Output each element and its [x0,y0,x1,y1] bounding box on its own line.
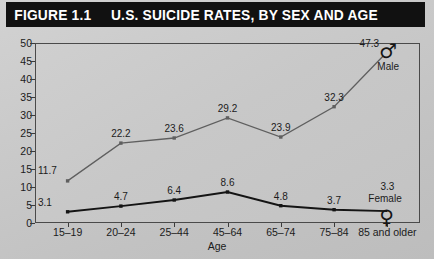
y-tick-mark [30,43,35,44]
data-value-label: 11.7 [38,165,57,176]
y-tick-label: 0 [12,217,32,229]
data-value-label: 47.3 [360,38,379,49]
y-tick-label: 30 [12,109,32,121]
y-tick-mark [30,79,35,80]
series-label-male: Male [377,61,399,72]
y-tick-label: 50 [12,37,32,49]
y-tick-mark [30,61,35,62]
x-axis-title: Age [0,240,434,252]
data-value-label: 8.6 [221,177,235,188]
data-value-label: 4.8 [274,191,288,202]
x-tick-mark [334,223,335,227]
x-tick-label: 75–84 [319,226,348,238]
male-symbol-icon: ♂ [379,41,397,61]
y-tick-mark [30,187,35,188]
x-tick-mark [68,223,69,227]
data-value-label: 4.7 [114,191,128,202]
data-value-label: 6.4 [167,185,181,196]
figure-title-bar: FIGURE 1.1 U.S. SUICIDE RATES, BY SEX AN… [6,2,425,27]
y-tick-mark [30,97,35,98]
data-value-label: 22.2 [111,128,130,139]
data-value-label: 23.9 [271,122,290,133]
data-value-label: 23.6 [164,123,183,134]
y-tick-mark [30,133,35,134]
y-tick-label: 40 [12,73,32,85]
x-tick-label: 20–24 [106,226,135,238]
x-tick-mark [174,223,175,227]
y-tick-mark [30,169,35,170]
figure-container: FIGURE 1.1 U.S. SUICIDE RATES, BY SEX AN… [0,0,434,272]
y-tick-mark [30,223,35,224]
data-value-label: 3.1 [38,197,52,208]
y-axis: 05101520253035404550 [10,0,32,272]
x-tick-label: 15–19 [53,226,82,238]
y-tick-label: 25 [12,127,32,139]
y-tick-label: 15 [12,163,32,175]
female-symbol-icon: ♀ [379,207,394,227]
y-tick-label: 35 [12,91,32,103]
data-value-label: 32.3 [324,92,343,103]
y-tick-mark [30,205,35,206]
y-tick-mark [30,115,35,116]
series-label-female: Female [368,193,401,204]
x-tick-label: 45–64 [213,226,242,238]
y-tick-label: 45 [12,55,32,67]
data-value-label: 29.2 [218,103,237,114]
y-tick-label: 5 [12,199,32,211]
plot-area [35,43,420,223]
x-tick-mark [121,223,122,227]
data-value-label: 3.7 [327,195,341,206]
y-tick-label: 20 [12,145,32,157]
x-tick-label: 65–74 [266,226,295,238]
x-tick-label: 25–44 [160,226,189,238]
y-tick-mark [30,151,35,152]
figure-title: U.S. SUICIDE RATES, BY SEX AND AGE [99,6,378,23]
x-tick-mark [228,223,229,227]
y-tick-label: 10 [12,181,32,193]
x-tick-mark [281,223,282,227]
data-value-label: 3.3 [380,181,394,192]
